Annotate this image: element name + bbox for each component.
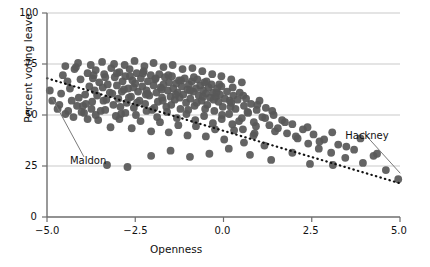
x-tick-label: −2.5 bbox=[123, 225, 147, 236]
data-point bbox=[107, 123, 115, 131]
data-point bbox=[292, 133, 300, 141]
data-point bbox=[198, 67, 206, 75]
data-point bbox=[110, 60, 118, 68]
data-point bbox=[98, 58, 106, 66]
y-tick-label: 50 bbox=[25, 109, 38, 120]
data-point bbox=[88, 98, 96, 106]
y-tick-label: 0 bbox=[30, 211, 36, 222]
data-point bbox=[186, 87, 194, 95]
data-point bbox=[183, 110, 191, 118]
data-point bbox=[113, 69, 121, 77]
data-point bbox=[215, 81, 223, 89]
data-point bbox=[174, 121, 182, 129]
data-point bbox=[220, 136, 228, 144]
data-point bbox=[124, 163, 132, 171]
data-point bbox=[117, 103, 125, 111]
data-point bbox=[179, 65, 187, 73]
data-point bbox=[74, 59, 82, 67]
x-tick-label: 2.5 bbox=[303, 225, 319, 236]
x-tick-label: −5.0 bbox=[35, 225, 59, 236]
data-point bbox=[217, 72, 225, 80]
data-point bbox=[77, 75, 85, 83]
data-point bbox=[235, 117, 243, 125]
data-point bbox=[90, 71, 98, 79]
data-point bbox=[219, 103, 227, 111]
y-tick-label: 75 bbox=[25, 58, 38, 69]
data-point bbox=[87, 61, 95, 69]
data-point bbox=[109, 101, 117, 109]
data-point bbox=[153, 113, 161, 121]
data-point bbox=[200, 112, 208, 120]
annotation-label: Maldon bbox=[70, 155, 106, 166]
data-point bbox=[184, 132, 192, 140]
data-point bbox=[271, 127, 279, 135]
data-point bbox=[104, 81, 112, 89]
data-point bbox=[208, 70, 216, 78]
data-point bbox=[327, 149, 335, 157]
data-point bbox=[73, 102, 81, 110]
data-point bbox=[160, 63, 168, 71]
x-tick-label: 0.0 bbox=[215, 225, 231, 236]
data-point bbox=[177, 76, 185, 84]
data-point bbox=[253, 101, 261, 109]
data-point bbox=[121, 61, 129, 69]
data-point bbox=[64, 107, 72, 115]
data-point bbox=[112, 112, 120, 120]
data-point bbox=[226, 97, 234, 105]
data-point bbox=[92, 111, 100, 119]
data-point bbox=[147, 152, 155, 160]
data-point bbox=[229, 84, 237, 92]
data-point bbox=[205, 150, 213, 158]
data-point bbox=[199, 93, 207, 101]
data-point bbox=[147, 127, 155, 135]
data-point bbox=[203, 77, 211, 85]
data-point bbox=[239, 92, 247, 100]
data-point bbox=[261, 114, 269, 122]
data-point bbox=[328, 128, 336, 136]
data-point bbox=[169, 61, 177, 69]
data-point bbox=[144, 90, 152, 98]
data-point bbox=[202, 133, 210, 141]
data-point bbox=[55, 101, 63, 109]
data-point bbox=[131, 57, 139, 65]
data-point bbox=[101, 106, 109, 114]
data-point bbox=[132, 111, 140, 119]
data-point bbox=[267, 156, 275, 164]
data-point bbox=[252, 122, 260, 130]
data-point bbox=[239, 125, 247, 133]
data-point bbox=[334, 141, 342, 149]
data-point bbox=[75, 94, 83, 102]
data-point bbox=[315, 145, 323, 153]
data-point bbox=[190, 73, 198, 81]
data-point bbox=[210, 107, 218, 115]
scatter-chart-figure: Percent voting leave Openness 0255075100… bbox=[0, 0, 430, 267]
y-tick-label: 100 bbox=[19, 7, 38, 18]
data-point bbox=[128, 124, 136, 132]
data-point bbox=[283, 129, 291, 137]
data-point bbox=[158, 86, 166, 94]
data-point bbox=[304, 140, 312, 148]
data-point bbox=[201, 105, 209, 113]
data-point bbox=[100, 97, 108, 105]
annotation-label: Hackney bbox=[345, 130, 388, 141]
data-point bbox=[101, 73, 109, 81]
data-point bbox=[189, 64, 197, 72]
data-point bbox=[167, 147, 175, 155]
data-point bbox=[310, 130, 318, 138]
data-point bbox=[265, 121, 273, 129]
data-point bbox=[70, 113, 78, 121]
data-point bbox=[118, 88, 126, 96]
y-tick-label: 25 bbox=[25, 160, 38, 171]
data-point bbox=[167, 101, 175, 109]
data-point bbox=[342, 143, 350, 151]
data-point bbox=[350, 146, 358, 154]
data-point bbox=[228, 120, 236, 128]
data-point bbox=[227, 75, 235, 83]
data-point bbox=[218, 115, 226, 123]
data-point bbox=[186, 153, 194, 161]
data-point bbox=[225, 145, 233, 153]
data-point bbox=[268, 107, 276, 115]
data-point bbox=[159, 97, 167, 105]
data-point bbox=[150, 59, 158, 67]
data-point bbox=[193, 99, 201, 107]
